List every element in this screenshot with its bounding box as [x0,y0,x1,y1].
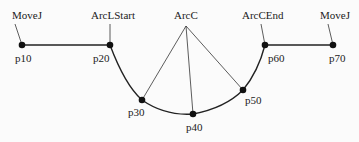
label-p40: p40 [186,121,203,133]
label-p10: p10 [15,52,32,64]
label-arcc: ArcC [174,9,198,21]
label-arccend: ArcCEnd [242,9,284,21]
label-p70: p70 [329,52,346,64]
label-movej2: MoveJ [320,9,351,21]
leader-arcc-p30 [142,26,186,100]
label-p60: p60 [268,52,285,64]
point-p70 [330,42,337,49]
point-p50 [240,87,247,94]
weld-path-diagram: MoveJ ArcLStart ArcC ArcCEnd MoveJ p10 p… [0,0,359,142]
arc-path [110,45,265,114]
leader-movej1 [15,24,22,45]
label-p50: p50 [245,94,262,106]
point-p10 [19,42,26,49]
point-p30 [139,97,146,104]
label-arclstart: ArcLStart [91,9,135,21]
leader-arcc-p40 [186,26,193,114]
point-p40 [190,111,197,118]
point-p60 [262,42,269,49]
label-p30: p30 [128,106,145,118]
label-p20: p20 [93,52,110,64]
point-p20 [107,42,114,49]
leader-arcc-p50 [186,26,243,90]
label-movej1: MoveJ [12,9,43,21]
